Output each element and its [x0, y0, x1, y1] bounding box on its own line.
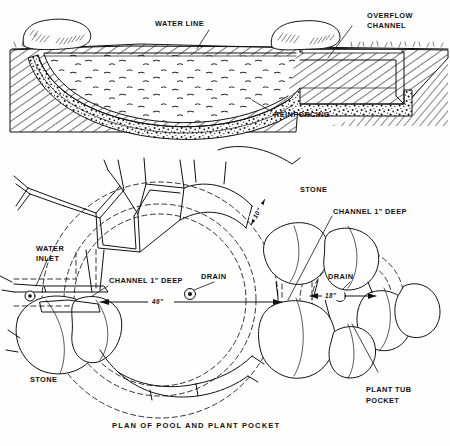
- plan-of-pool-and-plant-pocket: 46" 18" 10" STONE CHANNEL 1" DEEP WATER …: [0, 146, 440, 430]
- stone-group-right-upper: [264, 223, 379, 300]
- coping-stone-arc-bottom: [100, 350, 264, 400]
- label-water-line: WATER LINE: [155, 19, 204, 28]
- label-channel-left: CHANNEL 1" DEEP: [109, 276, 183, 285]
- coping-stone-right: [271, 21, 340, 50]
- label-overflow-channel-line1: OVERFLOW: [367, 11, 413, 20]
- dimension-46-value: 46": [151, 298, 164, 305]
- label-water-inlet-line2: INLET: [36, 254, 59, 263]
- dimension-10: 10": [247, 197, 268, 226]
- illustration-sheet: WATER LINE OVERFLOW CHANNEL REINFORCING: [0, 0, 450, 446]
- label-water-inlet-line1: WATER: [36, 244, 64, 253]
- drain-left: [185, 282, 215, 300]
- stone-group-left: [6, 296, 122, 374]
- label-plant-tub-line2: POCKET: [366, 396, 399, 405]
- label-plant-tub-line1: PLANT TUB: [366, 385, 411, 394]
- technical-illustration: WATER LINE OVERFLOW CHANNEL REINFORCING: [0, 0, 450, 446]
- channel-band-left: [86, 246, 104, 292]
- label-channel-right: CHANNEL 1" DEEP: [333, 207, 407, 216]
- figure-caption: PLAN OF POOL AND PLANT POCKET: [112, 421, 280, 430]
- label-reinforcing: REINFORCING: [274, 110, 330, 119]
- dimension-18-value: 18": [325, 292, 337, 299]
- label-drain-right: DRAIN: [328, 272, 353, 281]
- coping-stone-left: [23, 19, 91, 50]
- label-stone-top: STONE: [300, 185, 327, 194]
- label-overflow-channel-line2: CHANNEL: [367, 21, 406, 30]
- cross-section-of-pool: WATER LINE OVERFLOW CHANNEL REINFORCING: [10, 11, 448, 139]
- label-stone-bottom: STONE: [30, 375, 57, 384]
- label-drain-left: DRAIN: [201, 272, 226, 281]
- coping-stone-ring: [14, 146, 300, 252]
